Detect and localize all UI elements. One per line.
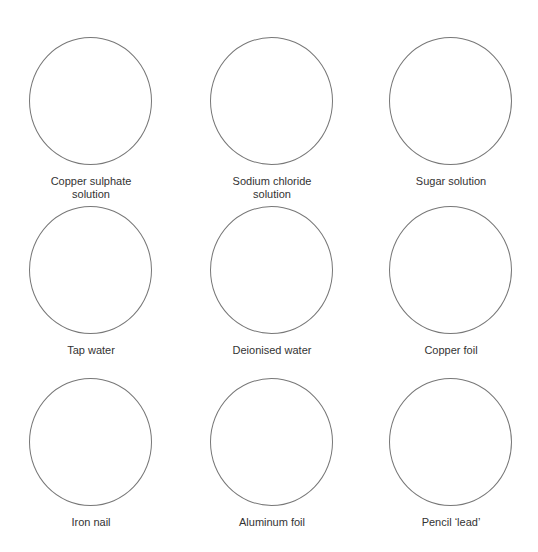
sample-label: Sugar solution xyxy=(371,175,531,188)
sample-label: Copper sulphate solution xyxy=(11,175,171,201)
sample-label: Sodium chloride solution xyxy=(192,175,352,201)
sample-circle xyxy=(210,378,333,506)
sample-label: Copper foil xyxy=(371,344,531,357)
sample-label: Tap water xyxy=(11,344,171,357)
sample-circle xyxy=(29,378,152,506)
sample-circle xyxy=(389,206,512,334)
sample-circle xyxy=(29,37,152,165)
sample-circle xyxy=(210,206,333,334)
sample-label: Deionised water xyxy=(192,344,352,357)
sample-circle xyxy=(210,37,333,165)
sample-circle xyxy=(389,37,512,165)
sample-label: Aluminum foil xyxy=(192,516,352,529)
sample-label: Iron nail xyxy=(11,516,171,529)
sample-label: Pencil ‘lead’ xyxy=(371,516,531,529)
sample-circle xyxy=(29,206,152,334)
sample-circle xyxy=(389,378,512,506)
